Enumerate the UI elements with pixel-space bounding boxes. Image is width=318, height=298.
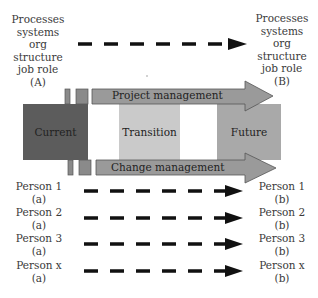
transition-label-box: Transition <box>119 104 180 160</box>
from-state-label: Processes systems org structure job role… <box>8 13 68 89</box>
small-bar <box>65 89 70 104</box>
person-state: (b) <box>255 272 309 285</box>
person-to-label: Person 2 (b) <box>255 206 309 231</box>
person-name: Person 3 <box>255 232 309 245</box>
label-line: job role <box>250 62 314 75</box>
future-label-box: Future <box>217 104 281 160</box>
to-state-label: Processes systems org structure job role… <box>250 12 314 88</box>
small-bar <box>68 160 73 175</box>
person-state: (a) <box>12 219 66 232</box>
speck <box>146 75 148 77</box>
current-label-box: Current <box>23 104 88 160</box>
label-line: org structure <box>8 38 68 63</box>
person-dashed-arrow <box>84 238 243 250</box>
person-dashed-arrow <box>84 212 243 224</box>
label-line: Processes <box>250 12 314 25</box>
person-to-label: Person 3 (b) <box>255 232 309 257</box>
person-name: Person 1 <box>255 180 309 193</box>
person-dashed-arrow <box>84 185 243 197</box>
person-state: (a) <box>12 245 66 258</box>
change-management-label: Change management <box>111 161 224 173</box>
person-name: Person 2 <box>12 206 66 219</box>
label-line: org structure <box>250 37 314 62</box>
person-name: Person x <box>12 259 66 272</box>
transition-label: Transition <box>119 126 180 138</box>
person-from-label: Person x (a) <box>12 259 66 284</box>
person-from-label: Person 2 (a) <box>12 206 66 231</box>
person-state: (b) <box>255 245 309 258</box>
small-bar <box>79 160 91 175</box>
person-name: Person 2 <box>255 206 309 219</box>
label-line: job role <box>8 63 68 76</box>
person-state: (a) <box>12 193 66 206</box>
project-management-label: Project management <box>112 89 223 101</box>
person-name: Person 3 <box>12 232 66 245</box>
current-label: Current <box>23 126 88 138</box>
label-line: Processes <box>8 13 68 26</box>
person-from-label: Person 1 (a) <box>12 180 66 205</box>
person-name: Person 1 <box>12 180 66 193</box>
person-state: (a) <box>12 272 66 285</box>
label-line: (B) <box>250 75 314 88</box>
label-line: (A) <box>8 76 68 89</box>
person-to-label: Person x (b) <box>255 259 309 284</box>
person-state: (b) <box>255 193 309 206</box>
person-name: Person x <box>255 259 309 272</box>
future-label: Future <box>217 126 281 138</box>
small-bar <box>76 89 88 104</box>
person-dashed-arrow <box>84 265 243 277</box>
person-from-label: Person 3 (a) <box>12 232 66 257</box>
person-to-label: Person 1 (b) <box>255 180 309 205</box>
label-line: systems <box>8 26 68 39</box>
label-line: systems <box>250 25 314 38</box>
top-dashed-arrow <box>78 38 247 50</box>
person-state: (b) <box>255 219 309 232</box>
